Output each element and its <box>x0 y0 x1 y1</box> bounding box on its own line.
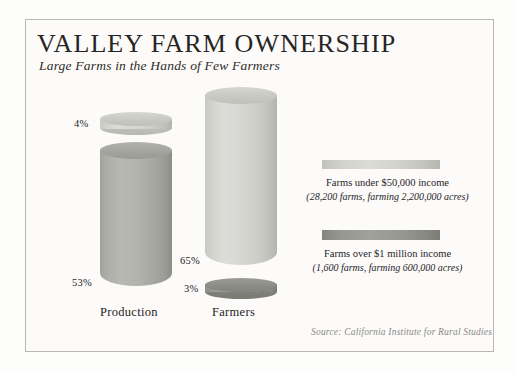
legend-item-farms-under-50k: Farms under $50,000 income (28,200 farms… <box>300 160 475 204</box>
bar-production-small-4pct <box>100 112 172 136</box>
legend-item-farms-over-1m: Farms over $1 million income (1,600 farm… <box>300 230 475 275</box>
legend-label-dark-line1: Farms over $1 million income <box>324 248 451 259</box>
value-label-farmers-large: 65% <box>180 255 200 266</box>
legend-label-light-line1: Farms under $50,000 income <box>326 177 449 188</box>
value-label-farmers-small: 3% <box>184 283 198 294</box>
legend: Farms under $50,000 income (28,200 farms… <box>300 160 475 291</box>
legend-label-light: Farms under $50,000 income (28,200 farms… <box>300 176 475 204</box>
legend-label-dark: Farms over $1 million income (1,600 farm… <box>300 247 475 275</box>
axis-label-production: Production <box>100 305 158 320</box>
bar-farmers-large-65pct <box>205 87 277 273</box>
value-label-production-small: 4% <box>74 118 88 129</box>
cylinder-body <box>100 150 172 286</box>
value-label-production-large: 53% <box>72 277 92 288</box>
cylinder-top-cap <box>100 142 172 159</box>
cylinder-top-cap <box>205 87 277 104</box>
axis-label-farmers: Farmers <box>212 305 255 320</box>
cylinder-top-cap <box>100 112 172 126</box>
legend-label-light-line2: (28,200 farms, farming 2,200,000 acres) <box>300 190 475 204</box>
source-note: Source: California Institute for Rural S… <box>311 327 492 337</box>
legend-swatch-dark <box>322 230 440 240</box>
legend-swatch-light <box>322 160 440 169</box>
bar-production-large-53pct <box>100 142 172 293</box>
bar-farmers-small-3pct <box>205 278 277 299</box>
cylinder-body <box>205 95 277 265</box>
cylinder-top-cap <box>205 278 277 292</box>
legend-label-dark-line2: (1,600 farms, farming 600,000 acres) <box>300 261 475 275</box>
